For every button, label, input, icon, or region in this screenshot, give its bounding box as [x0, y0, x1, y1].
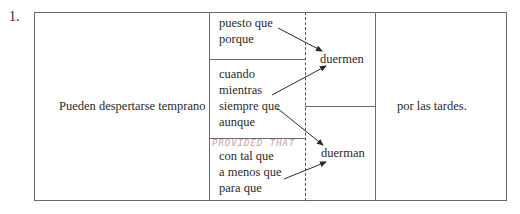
arrow-icon	[277, 108, 323, 145]
arrows-overlay	[0, 0, 520, 214]
arrow-icon	[272, 66, 326, 95]
arrow-icon	[284, 162, 326, 179]
arrow-icon	[278, 28, 322, 51]
